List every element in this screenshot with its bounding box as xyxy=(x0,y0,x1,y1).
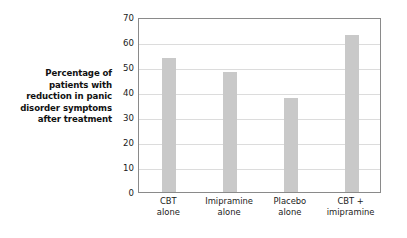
bar xyxy=(223,72,237,192)
y-axis-title-line: patients with xyxy=(6,80,112,92)
x-axis-tick-label-line: imipramine xyxy=(320,207,381,218)
bar xyxy=(162,58,176,192)
x-axis-tick-label-line: alone xyxy=(260,207,321,218)
y-axis-tick-label: 30 xyxy=(108,114,134,123)
y-axis-title-line: Percentage of xyxy=(6,68,112,80)
y-axis-title: Percentage of patients with reduction in… xyxy=(6,68,112,126)
x-axis-tick-label-line: alone xyxy=(199,207,260,218)
x-axis-tick-label: Placeboalone xyxy=(260,196,321,217)
y-axis-tick-label: 50 xyxy=(108,64,134,73)
y-axis-title-line: reduction in panic xyxy=(6,91,112,103)
x-axis-tick-label-line: CBT xyxy=(138,196,199,207)
y-axis-tick-label: 0 xyxy=(108,189,134,198)
x-axis-tick-label: CBTalone xyxy=(138,196,199,217)
bar xyxy=(345,35,359,193)
y-axis-ticks: 706050403020100 xyxy=(104,18,134,193)
x-axis-tick-label-line: alone xyxy=(138,207,199,218)
x-axis-ticks: CBTaloneImipraminealonePlaceboaloneCBT +… xyxy=(138,196,381,230)
y-axis-tick-label: 40 xyxy=(108,89,134,98)
y-axis-tick-label: 60 xyxy=(108,39,134,48)
x-axis-tick-label-line: Placebo xyxy=(260,196,321,207)
plot-area xyxy=(138,18,381,193)
x-axis-tick-label-line: Imipramine xyxy=(199,196,260,207)
y-axis-tick-label: 70 xyxy=(108,14,134,23)
y-axis-tick-label: 10 xyxy=(108,164,134,173)
y-axis-title-line: disorder symptoms xyxy=(6,103,112,115)
y-axis-title-line: after treatment xyxy=(6,114,112,126)
bar-chart-figure: Percentage of patients with reduction in… xyxy=(0,0,407,238)
x-axis-tick-label-line: CBT + xyxy=(320,196,381,207)
bar xyxy=(284,98,298,192)
x-axis-tick-label: CBT +imipramine xyxy=(320,196,381,217)
y-axis-tick-label: 20 xyxy=(108,139,134,148)
x-axis-tick-label: Imipraminealone xyxy=(199,196,260,217)
